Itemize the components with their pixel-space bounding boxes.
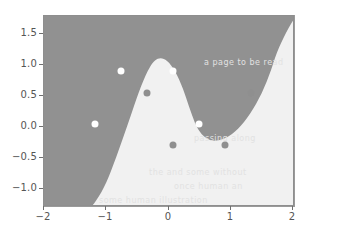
- scatter-point-class-1: [144, 90, 151, 97]
- scatter-point-class-1: [170, 141, 177, 148]
- scatter-point-class-0: [118, 68, 125, 75]
- scatter-point-class-0: [170, 68, 177, 75]
- scatter-point-class-1: [248, 90, 255, 97]
- scatter-points-layer: [0, 0, 364, 245]
- figure-canvas: a page to be read passing along the and …: [0, 0, 364, 245]
- scatter-point-class-1: [222, 141, 229, 148]
- scatter-point-class-0: [92, 120, 99, 127]
- scatter-point-class-0: [196, 120, 203, 127]
